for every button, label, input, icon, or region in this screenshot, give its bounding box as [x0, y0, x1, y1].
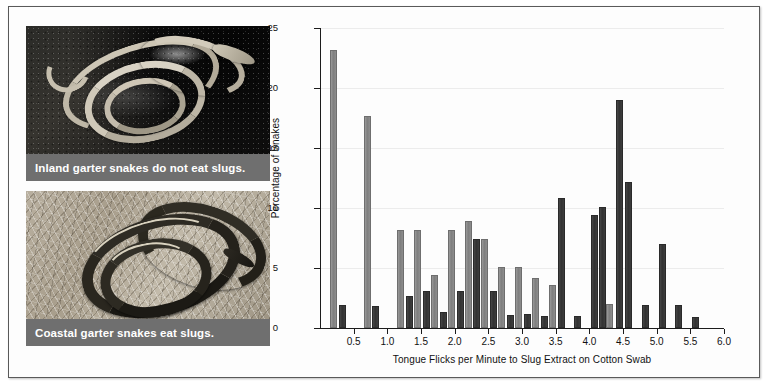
inland-garter-snake-photo — [26, 26, 270, 154]
histogram-bar — [642, 305, 649, 328]
histogram-bar — [599, 207, 606, 328]
histogram-bar — [591, 215, 598, 328]
histogram-bar — [659, 244, 666, 328]
y-axis-tick-label: 15 — [248, 143, 278, 153]
histogram-bar — [541, 316, 548, 328]
coastal-garter-snake-photo — [26, 191, 270, 319]
photo-caption-inland-text: Inland garter snakes do not eat slugs. — [26, 162, 245, 174]
x-axis-tick — [556, 329, 557, 334]
histogram-bar — [515, 267, 522, 328]
x-axis-tick-label: 2.5 — [473, 336, 503, 347]
y-axis-tick — [314, 148, 320, 149]
histogram-bar — [423, 291, 430, 328]
histogram-bar — [625, 182, 632, 328]
histogram-bar — [372, 306, 379, 328]
x-axis-tick-label: 4.5 — [608, 336, 638, 347]
x-axis-label: Tongue Flicks per Minute to Slug Extract… — [320, 354, 724, 365]
x-axis-tick-label: 6.0 — [709, 336, 739, 347]
histogram-bar — [675, 305, 682, 328]
histogram-bar — [498, 267, 505, 328]
histogram-bar — [532, 278, 539, 328]
x-axis-tick — [690, 329, 691, 334]
histogram-bar — [606, 304, 613, 328]
x-axis-tick-label: 1.0 — [372, 336, 402, 347]
figure-root: Inland garter snakes do not eat slugs. C… — [0, 0, 768, 391]
y-axis-tick-label: 0 — [248, 323, 278, 333]
x-axis-tick — [724, 329, 725, 334]
gridline — [320, 28, 724, 29]
histogram-bar — [692, 317, 699, 328]
x-axis-tick — [657, 329, 658, 334]
y-axis-tick — [314, 88, 320, 89]
histogram-bar — [457, 291, 464, 328]
photo-caption-inland: Inland garter snakes do not eat slugs. — [26, 154, 270, 181]
gridline — [320, 88, 724, 89]
x-axis-tick — [354, 329, 355, 334]
histogram-bar — [490, 291, 497, 328]
y-axis-tick — [314, 268, 320, 269]
x-axis-tick — [623, 329, 624, 334]
gridline — [320, 208, 724, 209]
x-axis-tick-label: 0.5 — [339, 336, 369, 347]
y-axis-tick — [314, 208, 320, 209]
histogram-bar — [330, 50, 337, 328]
y-axis-label: Percentage of Snakes — [270, 18, 281, 318]
gridline — [320, 148, 724, 149]
histogram-bar — [431, 275, 438, 328]
photo-caption-coastal-text: Coastal garter snakes eat slugs. — [26, 327, 214, 339]
x-axis-tick — [522, 329, 523, 334]
x-axis-tick — [421, 329, 422, 334]
y-axis-line — [320, 28, 321, 328]
histogram-bar — [448, 230, 455, 328]
y-axis-tick — [314, 28, 320, 29]
histogram-bar — [574, 316, 581, 328]
x-axis-tick-label: 5.5 — [675, 336, 705, 347]
y-axis-label-wrap: Percentage of Snakes — [270, 18, 284, 318]
photo-block-inland: Inland garter snakes do not eat slugs. — [26, 26, 270, 181]
histogram-bar — [364, 116, 371, 328]
x-axis-tick-label: 1.5 — [406, 336, 436, 347]
histogram-bar — [440, 312, 447, 328]
y-axis-tick-label: 5 — [248, 263, 278, 273]
histogram-bar — [481, 239, 488, 328]
histogram-bar — [414, 230, 421, 328]
histogram-bar — [558, 198, 565, 328]
x-axis-tick-label: 3.5 — [541, 336, 571, 347]
x-axis-tick-label: 3.0 — [507, 336, 537, 347]
x-axis-tick — [455, 329, 456, 334]
x-axis-tick-label: 5.0 — [642, 336, 672, 347]
y-axis-tick-label: 25 — [248, 23, 278, 33]
photo-block-coastal: Coastal garter snakes eat slugs. — [26, 191, 270, 346]
y-axis-tick — [314, 328, 320, 329]
histogram-bar — [406, 296, 413, 328]
x-axis-tick — [589, 329, 590, 334]
y-axis-tick-label: 20 — [248, 83, 278, 93]
histogram-bar — [549, 285, 556, 328]
x-axis-tick — [488, 329, 489, 334]
histogram-bar — [507, 315, 514, 328]
plot-area — [320, 28, 724, 328]
x-axis-tick-label: 2.0 — [440, 336, 470, 347]
x-axis-tick-label: 4.0 — [574, 336, 604, 347]
photo-caption-coastal: Coastal garter snakes eat slugs. — [26, 319, 270, 346]
histogram-bar — [339, 305, 346, 328]
x-axis-tick — [387, 329, 388, 334]
histogram-bar — [524, 314, 531, 328]
histogram-bar — [465, 221, 472, 328]
histogram-bar — [397, 230, 404, 328]
histogram-bar — [473, 239, 480, 328]
photo-column: Inland garter snakes do not eat slugs. C… — [26, 26, 270, 346]
histogram-chart: Percentage of Snakes Tongue Flicks per M… — [282, 18, 752, 374]
histogram-bar — [616, 100, 623, 328]
y-axis-tick-label: 10 — [248, 203, 278, 213]
